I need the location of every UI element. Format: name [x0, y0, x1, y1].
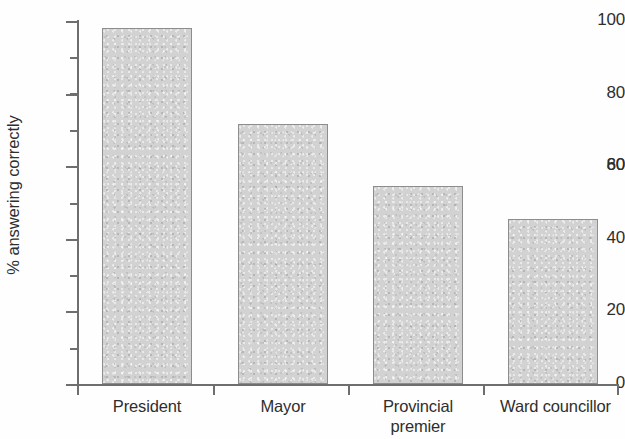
y-tick-label-60: 60: [563, 155, 625, 175]
y-axis-line: [77, 20, 79, 386]
x-label-provincial-premier: Provincial premier: [353, 396, 483, 436]
x-label-president: President: [82, 396, 212, 416]
bar-provincial-premier: [373, 186, 463, 384]
y-tick-label-100: 100: [563, 10, 625, 30]
bar-chart-figure: % answering correctly 100 80 80 60 40 20: [0, 0, 625, 439]
bar-ward-councillor: [508, 219, 598, 384]
x-label-ward-councillor: Ward councillor: [486, 396, 625, 416]
bar-president: [102, 28, 192, 384]
x-tick-3: [483, 384, 485, 395]
x-tick-4: [617, 384, 619, 395]
x-tick-0: [77, 384, 79, 395]
y-axis-label: % answering correctly: [4, 14, 30, 376]
bar-mayor: [238, 124, 328, 384]
x-tick-1: [213, 384, 215, 395]
x-tick-2: [348, 384, 350, 395]
x-axis-line: [77, 384, 617, 386]
y-tick-label-80b: 80: [563, 83, 625, 103]
x-label-mayor: Mayor: [218, 396, 348, 416]
